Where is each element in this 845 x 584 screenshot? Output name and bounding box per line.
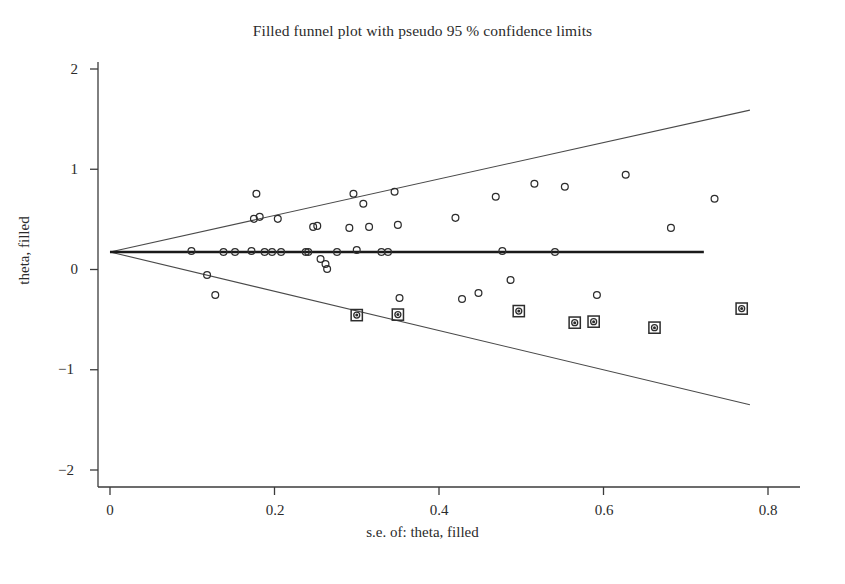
y-tick-label-neg2: −2 <box>34 462 74 479</box>
y-tick-label-0: 0 <box>38 261 78 278</box>
study-point <box>360 200 367 207</box>
study-point <box>459 296 466 303</box>
imputed-point-dot <box>355 314 358 317</box>
x-axis-label: s.e. of: theta, filled <box>0 524 845 541</box>
x-tick-label-02: 0.2 <box>255 502 295 519</box>
study-point <box>314 222 321 229</box>
funnel-plot-figure: Filled funnel plot with pseudo 95 % conf… <box>0 0 845 584</box>
study-point <box>394 221 401 228</box>
imputed-study-points <box>351 303 747 333</box>
imputed-point-dot <box>396 313 399 316</box>
study-point <box>350 190 357 197</box>
imputed-point-dot <box>653 326 656 329</box>
study-point <box>396 295 403 302</box>
study-point <box>668 224 675 231</box>
study-point <box>561 183 568 190</box>
study-point <box>346 224 353 231</box>
study-point <box>622 171 629 178</box>
imputed-point-dot <box>592 320 595 323</box>
page-title: Filled funnel plot with pseudo 95 % conf… <box>0 22 845 40</box>
study-point <box>531 180 538 187</box>
upper-confidence-limit <box>110 110 750 252</box>
study-point <box>253 190 260 197</box>
confidence-limit-lines <box>110 110 750 405</box>
plot-area <box>0 0 845 584</box>
x-tick-label-04: 0.4 <box>419 502 459 519</box>
imputed-point-dot <box>740 307 743 310</box>
y-tick-label-1: 1 <box>38 161 78 178</box>
study-point <box>475 290 482 297</box>
study-point <box>452 214 459 221</box>
study-point <box>366 223 373 230</box>
tick-marks <box>90 69 768 495</box>
study-point <box>492 193 499 200</box>
study-point <box>274 215 281 222</box>
y-tick-label-2: 2 <box>38 61 78 78</box>
study-point <box>507 277 514 284</box>
study-point <box>711 195 718 202</box>
study-point <box>594 292 601 299</box>
x-tick-label-08: 0.8 <box>748 502 788 519</box>
observed-study-points <box>188 171 718 302</box>
y-axis-label: theta, filled <box>16 181 33 321</box>
imputed-point-dot <box>573 321 576 324</box>
study-point <box>212 292 219 299</box>
imputed-point-dot <box>517 310 520 313</box>
y-tick-label-neg1: −1 <box>34 361 74 378</box>
x-tick-label-06: 0.6 <box>584 502 624 519</box>
x-tick-label-0: 0 <box>90 502 130 519</box>
